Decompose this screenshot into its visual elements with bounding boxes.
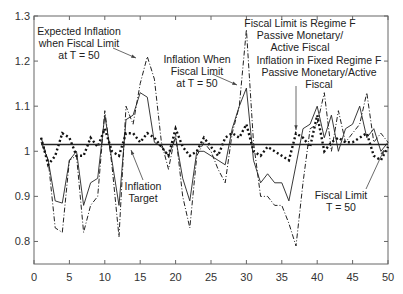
y-tick-label: 0.9 [15, 190, 30, 202]
x-tick-label: 50 [382, 271, 394, 283]
x-tick-label: 40 [311, 271, 323, 283]
y-tick-label: 1.2 [15, 55, 30, 67]
x-tick-label: 30 [240, 271, 252, 283]
y-tick-label: 1 [24, 145, 30, 157]
x-tick-label: 35 [276, 271, 288, 283]
annotation-text: InflationTarget [125, 180, 162, 204]
x-tick-label: 45 [346, 271, 358, 283]
y-tick-label: 1.3 [15, 10, 30, 22]
x-tick-label: 25 [205, 271, 217, 283]
chart: 051015202530354045500.80.911.11.21.3 Exp… [0, 0, 403, 294]
x-tick-label: 5 [66, 271, 72, 283]
y-tick-label: 1.1 [15, 100, 30, 112]
x-tick-label: 0 [31, 271, 37, 283]
x-tick-label: 15 [134, 271, 146, 283]
x-tick-label: 10 [99, 271, 111, 283]
y-tick-label: 0.8 [15, 235, 30, 247]
x-tick-label: 20 [169, 271, 181, 283]
